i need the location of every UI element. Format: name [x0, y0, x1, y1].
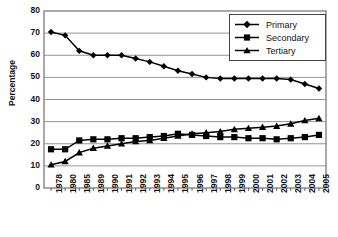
x-axis-tick-label: 1998 [224, 174, 233, 193]
square-marker-icon [234, 32, 260, 43]
chart-legend: PrimarySecondaryTertiary [229, 14, 326, 61]
x-axis-tick-label: 1997 [210, 174, 219, 193]
x-axis-tick-label: 1990 [111, 174, 120, 193]
x-axis-tick-label: 2004 [308, 174, 317, 193]
legend-item-primary: Primary [234, 18, 320, 31]
legend-label: Tertiary [266, 46, 296, 56]
line-chart: Percentage 01020304050607080 19781980198… [0, 0, 338, 237]
legend-item-tertiary: Tertiary [234, 44, 320, 57]
x-axis-tick-label: 1991 [125, 174, 134, 193]
legend-label: Secondary [266, 33, 309, 43]
x-axis-tick-label: 1996 [196, 174, 205, 193]
x-axis-tick-label: 1994 [167, 174, 176, 193]
diamond-marker-icon [234, 19, 260, 30]
triangle-marker-icon [234, 45, 260, 56]
x-axis-tick-label: 1989 [97, 174, 106, 193]
x-axis-tick-label: 2005 [322, 174, 331, 193]
x-axis-tick-label: 1995 [181, 174, 190, 193]
x-axis-tick-label: 1980 [69, 174, 78, 193]
legend-label: Primary [266, 20, 297, 30]
legend-item-secondary: Secondary [234, 31, 320, 44]
x-axis-tick-label: 2001 [266, 174, 275, 193]
x-axis-tick-label: 1978 [55, 174, 64, 193]
x-axis-tick-label: 2000 [252, 174, 261, 193]
x-axis-tick-label: 2003 [294, 174, 303, 193]
x-axis-tick-label: 1992 [139, 174, 148, 193]
x-axis-tick-label: 2002 [280, 174, 289, 193]
x-axis-tick-label: 1985 [83, 174, 92, 193]
x-axis-tick-label: 1993 [153, 174, 162, 193]
x-axis-tick-label: 1999 [238, 174, 247, 193]
